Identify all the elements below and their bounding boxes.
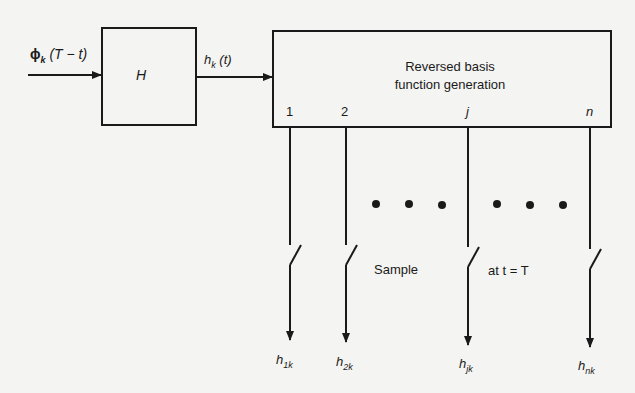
output-h1k: h1k xyxy=(276,352,293,367)
input-symbol: ϕ xyxy=(30,46,41,62)
port-n: n xyxy=(586,104,593,119)
h-block-border xyxy=(102,28,196,125)
generator-line1: Reversed basis xyxy=(340,58,560,76)
port-1: 1 xyxy=(286,104,293,119)
sample-label: Sample xyxy=(374,262,418,277)
generator-line2: function generation xyxy=(340,76,560,94)
input-signal-label: ϕk (T − t) xyxy=(30,46,87,62)
h-block-label: H xyxy=(136,67,146,83)
output-hjk: hjk xyxy=(459,356,473,371)
generator-label: Reversed basis function generation xyxy=(340,58,560,94)
output-hnk: hnk xyxy=(578,358,595,373)
output-h2k: h2k xyxy=(336,354,353,369)
port-2: 2 xyxy=(341,104,348,119)
middle-argument: (t) xyxy=(219,52,231,67)
input-subscript: k xyxy=(41,55,46,65)
middle-subscript: k xyxy=(211,60,216,70)
sample-time-label: at t = T xyxy=(488,263,529,278)
middle-signal-label: hk (t) xyxy=(204,52,232,67)
port-j: j xyxy=(466,104,469,119)
input-argument: (T − t) xyxy=(49,46,87,62)
